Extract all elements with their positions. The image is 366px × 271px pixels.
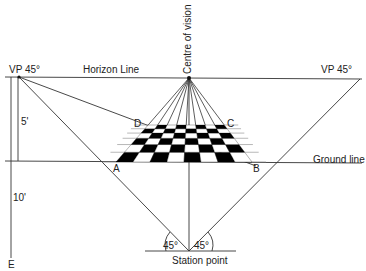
board-square <box>186 125 196 129</box>
board-square <box>172 138 186 144</box>
ray-line <box>167 78 189 125</box>
board-square <box>185 145 200 153</box>
centre-of-vision-label: Centre of vision <box>183 5 193 74</box>
board-square <box>215 125 227 129</box>
board-square <box>217 129 231 133</box>
board-square <box>161 133 175 138</box>
horizon-line-label: Horizon Line <box>83 65 139 75</box>
board-square <box>198 138 212 144</box>
board-square <box>165 125 176 129</box>
board-square <box>184 152 201 162</box>
height-10-label: 10' <box>13 193 26 203</box>
ray-line <box>189 78 205 125</box>
board-square <box>175 129 186 133</box>
ground-line-label: Ground line <box>313 155 365 165</box>
sp-to-vp-left <box>19 77 189 251</box>
station-point-label: Station point <box>172 256 228 266</box>
board-square <box>197 133 210 138</box>
ray-line <box>189 78 224 125</box>
checkerboard <box>116 125 252 162</box>
board-square <box>196 129 208 133</box>
angle-left-label: 45° <box>163 241 178 251</box>
vp-right-label: VP 45° <box>321 65 352 75</box>
angle-right-label: 45° <box>194 241 209 251</box>
perspective-diagram: VP 45° Horizon Line VP 45° Centre of vis… <box>0 0 366 271</box>
corner-c-label: C <box>227 119 234 129</box>
vp-left-label: VP 45° <box>9 65 40 75</box>
vp-left-point <box>17 75 20 78</box>
board-square <box>186 129 197 133</box>
corner-b-label: B <box>253 164 260 174</box>
corner-d-label: D <box>134 119 141 129</box>
board-square <box>173 133 186 138</box>
board-square <box>176 125 186 129</box>
board-square <box>163 129 175 133</box>
board-square <box>185 138 198 144</box>
height-5-label: 5' <box>21 117 28 127</box>
centre-of-vision-point <box>187 76 191 80</box>
ray-line <box>158 78 189 125</box>
ray-line <box>189 78 215 125</box>
board-square <box>170 145 185 153</box>
board-square <box>196 125 207 129</box>
board-square <box>219 133 234 138</box>
orthogonal-lines <box>148 78 224 125</box>
board-square <box>167 152 185 162</box>
board-square <box>185 133 197 138</box>
sp-to-vp-right <box>189 79 360 251</box>
horizon-line <box>5 77 362 79</box>
corner-a-label: A <box>113 164 120 174</box>
point-e-label: E <box>8 260 15 270</box>
